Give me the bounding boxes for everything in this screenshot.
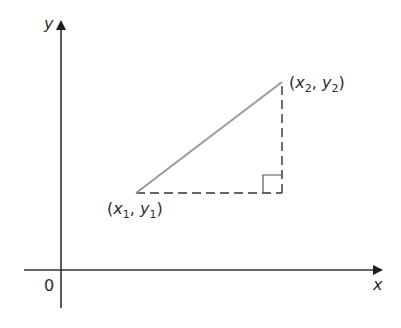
y-axis-label: y — [44, 16, 53, 32]
paren-close: ) — [338, 73, 344, 92]
origin-label: 0 — [44, 278, 54, 294]
point-2-label: (x2, y2) — [289, 75, 345, 91]
x-var: x — [295, 73, 304, 92]
x-subscript: 2 — [305, 82, 312, 95]
x-var: x — [113, 199, 122, 218]
y-axis-label-text: y — [44, 14, 53, 33]
origin-label-text: 0 — [44, 276, 54, 295]
y-var: y — [140, 199, 149, 218]
coordinate-diagram: y 0 x (x2, y2) (x1, y1) — [0, 0, 401, 328]
point-1-label: (x1, y1) — [107, 201, 163, 217]
paren-close: ) — [156, 199, 162, 218]
comma: , — [312, 73, 317, 92]
comma: , — [130, 199, 135, 218]
diagram-canvas — [0, 0, 401, 328]
x-subscript: 1 — [123, 208, 130, 221]
x-axis-label: x — [373, 277, 382, 293]
y-var: y — [322, 73, 331, 92]
right-angle-marker — [263, 175, 282, 193]
hypotenuse — [136, 82, 282, 193]
x-axis-label-text: x — [373, 275, 382, 294]
